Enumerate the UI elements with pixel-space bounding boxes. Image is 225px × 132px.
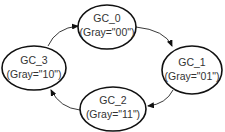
state-value: (Gray="00") bbox=[79, 26, 134, 38]
state-gc3: GC_3 (Gray="10") bbox=[2, 46, 66, 90]
state-name: GC_0 bbox=[93, 12, 121, 24]
state-gc1: GC_1 (Gray="01") bbox=[162, 46, 222, 94]
state-value: (Gray="01") bbox=[164, 70, 219, 82]
state-gc0: GC_0 (Gray="00") bbox=[78, 5, 136, 49]
transition-gc3-gc0 bbox=[48, 26, 78, 46]
transition-gc0-gc1 bbox=[136, 27, 172, 46]
transition-gc1-gc2 bbox=[148, 90, 173, 106]
state-diagram: GC_0 (Gray="00") GC_1 (Gray="01") GC_2 (… bbox=[0, 0, 225, 132]
state-name: GC_1 bbox=[178, 56, 206, 68]
state-value: (Gray="11") bbox=[86, 108, 140, 120]
transition-gc2-gc3 bbox=[51, 90, 80, 110]
state-name: GC_3 bbox=[20, 54, 48, 66]
state-name: GC_2 bbox=[99, 94, 127, 106]
state-gc2: GC_2 (Gray="11") bbox=[80, 87, 146, 131]
state-value: (Gray="10") bbox=[6, 68, 61, 80]
